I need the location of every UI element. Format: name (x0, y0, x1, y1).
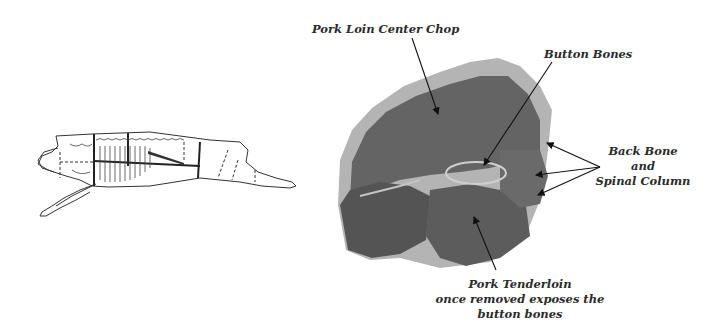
arrow-tenderloin (474, 217, 496, 270)
label-pork-loin-center-chop: Pork Loin Center Chop (312, 22, 459, 37)
label-back-bone: Back Bone and Spinal Column (590, 144, 696, 189)
label-tenderloin-line1: Pork Tenderloin (430, 277, 610, 292)
label-pork-tenderloin: Pork Tenderloin once removed exposes the… (430, 277, 610, 322)
arrow-chop (412, 38, 438, 114)
label-button-bones: Button Bones (544, 47, 632, 62)
label-back-bone-line1: Back Bone (590, 144, 696, 159)
label-tenderloin-line3: button bones (430, 307, 610, 322)
label-tenderloin-line2: once removed exposes the (430, 292, 610, 307)
label-back-bone-line3: Spinal Column (590, 174, 696, 189)
arrow-button-bones (484, 62, 552, 165)
label-back-bone-line2: and (590, 159, 696, 174)
